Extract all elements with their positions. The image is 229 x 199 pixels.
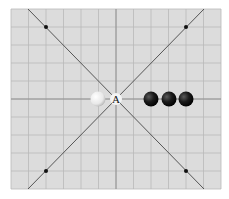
- white-stone: [91, 92, 106, 107]
- black-stone: [179, 92, 194, 107]
- diagonal-marker-dot: [44, 169, 48, 173]
- black-stone: [144, 92, 159, 107]
- caption: [0, 190, 229, 199]
- go-board-diagram: A: [0, 0, 229, 199]
- diagonal-marker-dot: [44, 25, 48, 29]
- diagonal-marker-dot: [184, 169, 188, 173]
- diagonal-marker-dot: [184, 25, 188, 29]
- black-stone: [162, 92, 177, 107]
- point-a-label: A: [112, 93, 120, 105]
